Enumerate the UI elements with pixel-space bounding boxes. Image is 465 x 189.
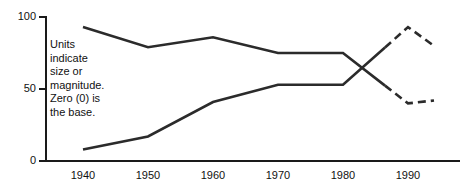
- units-annotation-line-5: Zero (0) is: [50, 92, 142, 106]
- y-tick-label-50: 50: [8, 83, 36, 94]
- units-annotation-line-4: magnitude.: [50, 79, 142, 93]
- units-annotation: Units indicate size or magnitude. Zero (…: [50, 38, 142, 120]
- x-tick-label-1950: 1950: [123, 170, 173, 181]
- series-declining-dashed: [385, 86, 434, 104]
- x-tick-label-1990: 1990: [383, 170, 433, 181]
- x-tick-label-1970: 1970: [253, 170, 303, 181]
- line-chart: 100 50 0 1940 1950 1960 1970 1980 1990 U…: [0, 0, 465, 189]
- units-annotation-line-6: the base.: [50, 106, 142, 120]
- units-annotation-line-1: Units: [50, 38, 142, 52]
- units-annotation-line-3: size or: [50, 65, 142, 79]
- x-tick-label-1940: 1940: [58, 170, 108, 181]
- units-annotation-line-2: indicate: [50, 52, 142, 66]
- x-tick-label-1960: 1960: [188, 170, 238, 181]
- x-tick-label-1980: 1980: [318, 170, 368, 181]
- y-tick-label-100: 100: [8, 11, 36, 22]
- series-rising-dashed: [385, 27, 434, 47]
- y-tick-label-0: 0: [8, 155, 36, 166]
